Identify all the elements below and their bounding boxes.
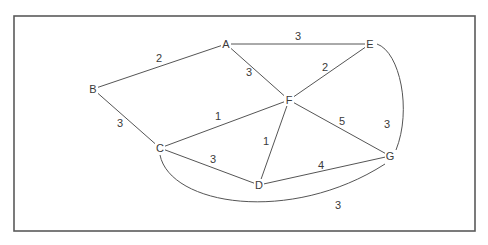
edge-weight-a-f: 3 bbox=[246, 66, 252, 78]
node-f: F bbox=[284, 94, 294, 106]
node-b: B bbox=[88, 83, 98, 95]
node-label: A bbox=[222, 38, 230, 50]
edge-e-f bbox=[289, 44, 370, 100]
edge-weight-d-f: 1 bbox=[263, 135, 269, 147]
edge-f-g bbox=[289, 100, 390, 156]
edge-b-c bbox=[93, 89, 160, 148]
edge-weight-e-g: 3 bbox=[384, 118, 390, 130]
node-label: C bbox=[156, 142, 164, 154]
edge-c-g bbox=[160, 155, 385, 202]
weights-layer: 233323133145 bbox=[117, 30, 390, 211]
edge-weight-d-g: 4 bbox=[318, 159, 324, 171]
edge-e-g bbox=[377, 44, 403, 150]
edge-weight-c-f: 1 bbox=[215, 110, 221, 122]
node-c: C bbox=[155, 142, 165, 154]
edge-weight-b-c: 3 bbox=[117, 117, 123, 129]
nodes-layer: ABCDEFG bbox=[88, 38, 395, 191]
edge-weight-a-b: 2 bbox=[156, 52, 162, 64]
node-label: D bbox=[255, 179, 263, 191]
edge-c-f bbox=[160, 100, 289, 148]
edge-a-f bbox=[226, 44, 289, 100]
node-g: G bbox=[385, 150, 395, 162]
edge-a-b bbox=[93, 44, 226, 89]
node-label: B bbox=[89, 83, 96, 95]
diagram-frame bbox=[14, 16, 475, 231]
edge-weight-c-d: 3 bbox=[210, 153, 216, 165]
graph-diagram: 233323133145 ABCDEFG bbox=[0, 0, 488, 245]
edge-weight-e-f: 2 bbox=[322, 61, 328, 73]
node-d: D bbox=[254, 179, 264, 191]
node-e: E bbox=[365, 38, 375, 50]
node-a: A bbox=[221, 38, 231, 50]
edge-weight-a-e: 3 bbox=[295, 30, 301, 42]
edge-weight-f-g: 5 bbox=[339, 115, 345, 127]
node-label: G bbox=[386, 150, 395, 162]
node-label: E bbox=[366, 38, 373, 50]
edge-d-g bbox=[259, 156, 390, 185]
node-label: F bbox=[286, 94, 293, 106]
edge-weight-c-g: 3 bbox=[335, 199, 341, 211]
